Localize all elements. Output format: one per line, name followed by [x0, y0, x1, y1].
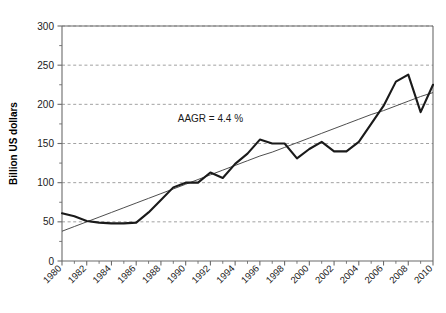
- y-tick-label-50: 50: [43, 216, 55, 227]
- y-axis: 050100150200250300: [37, 21, 62, 267]
- x-tick-label-2000: 2000: [288, 263, 311, 286]
- x-tick-label-1992: 1992: [189, 263, 212, 286]
- x-tick-label-2010: 2010: [412, 263, 435, 286]
- y-tick-label-150: 150: [37, 138, 54, 149]
- y-axis-title: Billion US dollars: [8, 102, 19, 185]
- x-tick-label-1980: 1980: [41, 263, 64, 286]
- x-tick-label-2004: 2004: [337, 263, 360, 286]
- line-chart: 050100150200250300 198019821984198619881…: [0, 0, 446, 313]
- x-axis: 1980198219841986198819901992199419961998…: [41, 261, 435, 285]
- y-tick-label-300: 300: [37, 21, 54, 32]
- annotation-aagr-0: AAGR = 4.4 %: [178, 113, 243, 124]
- x-tick-label-2008: 2008: [387, 263, 410, 286]
- x-tick-label-1994: 1994: [214, 263, 237, 286]
- x-tick-label-1990: 1990: [164, 263, 187, 286]
- x-tick-label-1988: 1988: [140, 263, 163, 286]
- y-tick-label-100: 100: [37, 177, 54, 188]
- y-tick-label-250: 250: [37, 60, 54, 71]
- chart-container: 050100150200250300 198019821984198619881…: [0, 0, 446, 313]
- data-line-series: [62, 75, 433, 224]
- x-tick-label-2006: 2006: [362, 263, 385, 286]
- series-path-value: [62, 75, 433, 224]
- x-tick-label-1982: 1982: [65, 263, 88, 286]
- x-tick-label-1986: 1986: [115, 263, 138, 286]
- y-tick-label-200: 200: [37, 99, 54, 110]
- y-axis-title-text: Billion US dollars: [8, 102, 19, 185]
- chart-annotations: AAGR = 4.4 %: [178, 113, 243, 124]
- x-tick-label-1996: 1996: [239, 263, 262, 286]
- gridlines: [62, 26, 433, 222]
- x-tick-label-2002: 2002: [313, 263, 336, 286]
- x-tick-label-1984: 1984: [90, 263, 113, 286]
- x-tick-label-1998: 1998: [263, 263, 286, 286]
